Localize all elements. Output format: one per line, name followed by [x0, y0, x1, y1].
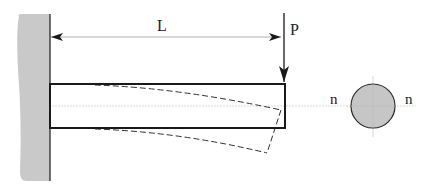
neutral-axis-right-label: n [405, 92, 413, 107]
cross-section [351, 76, 395, 137]
fixed-wall [17, 14, 50, 181]
length-label: L [157, 18, 167, 34]
neutral-axis-left-label: n [330, 92, 338, 107]
beam-deflected [95, 85, 281, 153]
cantilever-diagram: L P n n [0, 0, 427, 190]
load-label: P [290, 22, 299, 38]
diagram-canvas [0, 0, 427, 190]
